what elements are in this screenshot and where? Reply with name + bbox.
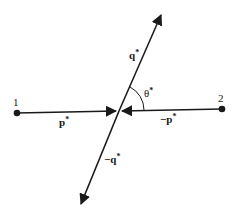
theta-angle-arc — [130, 87, 144, 110]
minus-p-star-label: −p* — [160, 112, 176, 125]
p-star-label: p* — [59, 115, 69, 128]
minus-q-star-superscript: * — [116, 152, 120, 161]
minus-q-star-label: −q* — [104, 152, 120, 165]
minus-p-star-vector — [122, 109, 222, 111]
particle-1-dot — [14, 110, 21, 117]
p-star-vector — [17, 111, 116, 113]
particle-1-label: 1 — [13, 96, 19, 108]
scattering-diagram: 1 2 p* −p* q* −q* θ* — [0, 0, 235, 218]
particle-2-dot — [219, 106, 226, 113]
minus-p-star-superscript: * — [172, 112, 176, 121]
particle-2-label: 2 — [218, 92, 224, 104]
p-star-superscript: * — [65, 115, 69, 124]
q-star-superscript: * — [135, 48, 139, 57]
minus-p-symbol: −p — [160, 113, 172, 125]
theta-star-label: θ* — [144, 86, 153, 99]
theta-star-superscript: * — [149, 86, 153, 95]
minus-q-symbol: −q — [104, 153, 117, 165]
q-star-label: q* — [129, 48, 139, 61]
